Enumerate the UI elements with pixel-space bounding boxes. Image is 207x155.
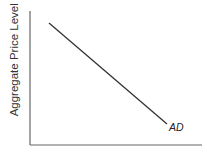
y-axis-label: Aggregate Price Level (P) <box>4 0 24 128</box>
ad-curve <box>49 23 167 124</box>
ad-curve-label: AD <box>169 121 184 133</box>
